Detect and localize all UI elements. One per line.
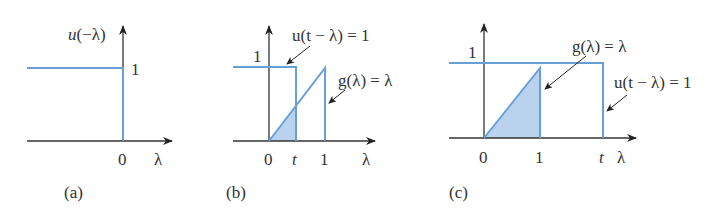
ramp-pointer-arrow xyxy=(545,56,586,89)
ramp-label: g(λ) = λ xyxy=(338,71,393,90)
ramp-label: g(λ) = λ xyxy=(572,37,627,56)
x-tick-t: t xyxy=(599,148,605,167)
panel-b: 1 u(t − λ) = 1 g(λ) = λ 0 t 1 λ (b) xyxy=(226,26,393,202)
x-tick-0: 0 xyxy=(479,148,488,167)
step-label: u(t − λ) = 1 xyxy=(614,73,691,92)
x-axis-label: λ xyxy=(617,148,626,167)
x-tick-1: 1 xyxy=(320,150,329,169)
x-axis-label: λ xyxy=(154,150,163,169)
x-tick-0: 0 xyxy=(118,150,127,169)
y-tick-1: 1 xyxy=(131,60,140,79)
panel-a: u(−λ) 1 0 λ (a) xyxy=(27,25,172,202)
caption: (b) xyxy=(226,183,246,202)
caption: (c) xyxy=(449,183,468,202)
x-tick-t: t xyxy=(292,150,298,169)
x-tick-1: 1 xyxy=(535,148,544,167)
y-tick-1: 1 xyxy=(253,47,262,66)
y-tick-1: 1 xyxy=(468,43,477,62)
step-pointer-arrow xyxy=(607,95,627,111)
function-label: u(−λ) xyxy=(68,25,106,44)
ramp-pointer-arrow xyxy=(329,90,345,103)
x-tick-0: 0 xyxy=(264,150,273,169)
convolution-diagram: u(−λ) 1 0 λ (a) 1 u(t − λ) = 1 g(λ) = λ … xyxy=(0,0,721,218)
panel-c: 1 g(λ) = λ u(t − λ) = 1 0 1 t λ (c) xyxy=(449,24,691,202)
step-pointer-arrow xyxy=(287,46,310,64)
reflected-step-signal xyxy=(27,68,123,141)
step-label: u(t − λ) = 1 xyxy=(292,26,369,45)
caption: (a) xyxy=(64,183,83,202)
x-axis-label: λ xyxy=(362,150,371,169)
